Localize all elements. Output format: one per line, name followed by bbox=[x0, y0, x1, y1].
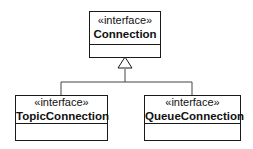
class-header: «interface» Connection bbox=[90, 12, 160, 45]
generalization-arrow-icon bbox=[118, 57, 132, 68]
class-connection[interactable]: «interface» Connection bbox=[89, 11, 161, 58]
class-name: TopicConnection bbox=[16, 109, 107, 123]
class-queue-connection[interactable]: «interface» QueueConnection bbox=[144, 95, 241, 141]
class-topic-connection[interactable]: «interface» TopicConnection bbox=[15, 95, 108, 141]
stereotype-label: «interface» bbox=[16, 96, 107, 109]
stereotype-label: «interface» bbox=[145, 96, 240, 109]
class-name: QueueConnection bbox=[145, 109, 240, 123]
class-header: «interface» QueueConnection bbox=[145, 96, 240, 124]
class-header: «interface» TopicConnection bbox=[16, 96, 107, 124]
stereotype-label: «interface» bbox=[90, 12, 160, 27]
class-name: Connection bbox=[90, 27, 160, 41]
